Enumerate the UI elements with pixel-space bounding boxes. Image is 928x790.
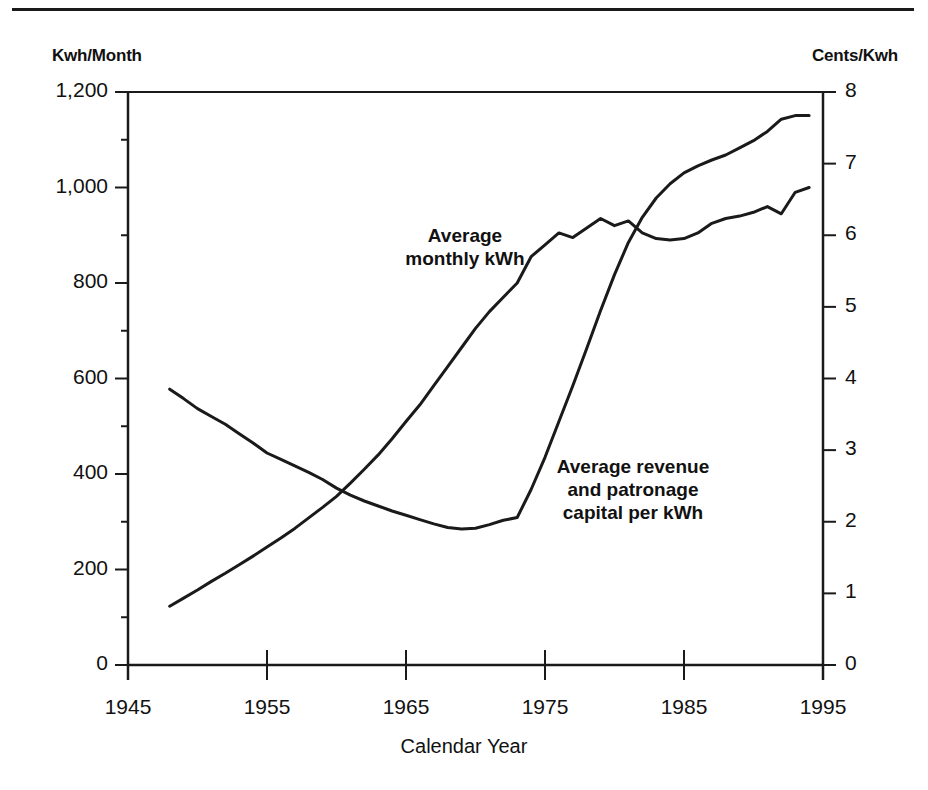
annotation-revenue-line1: Average revenue — [557, 456, 709, 477]
left-axis-ticks — [115, 92, 128, 665]
annotation-average-revenue: Average revenueand patronagecapital per … — [513, 455, 753, 525]
right-tick-label-4: 4 — [845, 365, 915, 389]
x-tick-label-1955: 1955 — [222, 695, 312, 719]
plot-area — [0, 0, 928, 790]
right-tick-label-6: 6 — [845, 221, 915, 245]
right-tick-label-8: 8 — [845, 78, 915, 102]
right-tick-label-3: 3 — [845, 436, 915, 460]
right-axis-ticks — [823, 92, 836, 665]
axes-frame — [128, 92, 823, 680]
right-tick-label-1: 1 — [845, 579, 915, 603]
right-tick-label-7: 7 — [845, 150, 915, 174]
x-tick-label-1975: 1975 — [500, 695, 590, 719]
right-tick-label-2: 2 — [845, 508, 915, 532]
x-axis-title: Calendar Year — [0, 735, 928, 758]
annotation-revenue-line2: and patronage — [568, 479, 699, 500]
x-tick-label-1965: 1965 — [361, 695, 451, 719]
right-tick-label-0: 0 — [845, 651, 915, 675]
right-tick-label-5: 5 — [845, 293, 915, 317]
left-tick-label-800: 800 — [18, 269, 108, 293]
chart-figure: Kwh/Month Cents/Kwh 02004006008001,0001,… — [0, 0, 928, 790]
left-tick-label-600: 600 — [18, 365, 108, 389]
x-tick-label-1985: 1985 — [639, 695, 729, 719]
annotation-kwh-line2: monthly kWh — [405, 248, 524, 269]
annotation-kwh-line1: Average — [428, 225, 502, 246]
x-tick-label-1995: 1995 — [778, 695, 868, 719]
annotation-average-monthly-kwh: Averagemonthly kWh — [370, 224, 560, 270]
left-tick-label-1200: 1,200 — [18, 78, 108, 102]
left-tick-label-1000: 1,000 — [18, 174, 108, 198]
left-tick-label-0: 0 — [18, 651, 108, 675]
x-tick-label-1945: 1945 — [83, 695, 173, 719]
left-tick-label-400: 400 — [18, 460, 108, 484]
annotation-revenue-line3: capital per kWh — [563, 502, 703, 523]
left-tick-label-200: 200 — [18, 556, 108, 580]
